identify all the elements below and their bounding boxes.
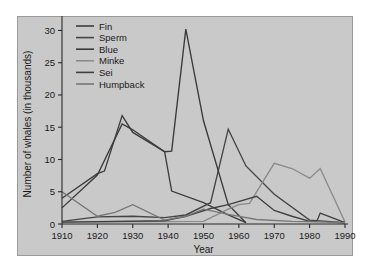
series-line-minke [62, 163, 345, 222]
x-tick-label-1950: 1950 [193, 230, 214, 241]
y-tick-label-10: 10 [44, 154, 55, 165]
x-tick-label-1980: 1980 [299, 230, 320, 241]
legend: FinSpermBlueMinkeSeiHumpback [76, 21, 145, 90]
y-tick-label-25: 25 [44, 57, 55, 68]
x-tick-label-1960: 1960 [228, 230, 249, 241]
series-line-humpback [62, 192, 345, 223]
x-tick-label-1970: 1970 [264, 230, 285, 241]
y-tick-label-30: 30 [44, 25, 55, 36]
x-tick-label-1910: 1910 [51, 230, 72, 241]
series-line-blue [62, 29, 246, 223]
y-axis-title: Number of whales (in thousands) [22, 51, 33, 198]
whale-catch-line-chart: 0510152025301910192019301940195019601970… [0, 0, 366, 275]
y-tick-label-5: 5 [50, 186, 55, 197]
chart-canvas: 0510152025301910192019301940195019601970… [0, 0, 366, 275]
x-tick-label-1940: 1940 [158, 230, 179, 241]
legend-label-sei: Sei [99, 67, 113, 78]
legend-label-humpback: Humpback [99, 79, 145, 90]
legend-label-minke: Minke [99, 55, 124, 66]
legend-label-fin: Fin [99, 21, 112, 32]
y-tick-label-20: 20 [44, 89, 55, 100]
x-tick-label-1920: 1920 [87, 230, 108, 241]
legend-label-sperm: Sperm [99, 32, 127, 43]
y-tick-label-15: 15 [44, 122, 55, 133]
x-tick-label-1930: 1930 [122, 230, 143, 241]
y-tick-label-0: 0 [50, 219, 55, 230]
legend-label-blue: Blue [99, 44, 118, 55]
x-tick-label-1990: 1990 [334, 230, 355, 241]
x-axis-title: Year [193, 244, 214, 255]
